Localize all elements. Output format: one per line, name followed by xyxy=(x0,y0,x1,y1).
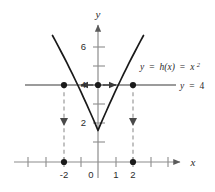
graph-figure: -2 0 1 2 2 4 6 y x y = h(x) = x 2 y = 4 xyxy=(0,0,215,192)
curve-label-function: h(x) xyxy=(160,62,175,73)
drop-arrowhead-right xyxy=(129,118,137,126)
marker-solution-right xyxy=(130,159,136,165)
line-label-value: 4 xyxy=(200,81,205,91)
y-tick-label-4: 4 xyxy=(81,79,86,90)
y-tick-labels: 2 4 6 xyxy=(81,41,86,128)
marker-line-y-intercept xyxy=(95,82,101,88)
line-label-y: y xyxy=(179,81,185,91)
curve-equation-label: y = h(x) = x 2 xyxy=(139,61,201,74)
marker-solution-left xyxy=(61,159,67,165)
curve-label-exponent: 2 xyxy=(197,61,201,68)
curve-label-equals-2: = xyxy=(180,62,185,72)
curve-label-equals-1: = xyxy=(149,62,154,72)
x-axis-label: x xyxy=(190,156,196,168)
line-label-equals: = xyxy=(189,81,194,91)
drop-arrowhead-left xyxy=(60,118,68,126)
y-axis-label: y xyxy=(95,8,101,20)
curve-label-base: x xyxy=(189,62,195,72)
axes-group xyxy=(14,25,180,178)
marker-intersection-right xyxy=(130,82,136,88)
x-tick-label--2: -2 xyxy=(60,169,68,180)
horizontal-line-equation-label: y = 4 xyxy=(179,81,205,91)
curve-label-y: y xyxy=(139,62,145,72)
y-tick-label-2: 2 xyxy=(81,117,86,128)
x-tick-label-1: 1 xyxy=(113,169,118,180)
y-tick-label-6: 6 xyxy=(81,41,86,52)
x-tick-label-0: 0 xyxy=(88,169,93,180)
x-tick-label-2: 2 xyxy=(130,169,135,180)
cartesian-plot: -2 0 1 2 2 4 6 y x y = h(x) = x 2 y = 4 xyxy=(0,0,215,192)
marker-intersection-left xyxy=(61,82,67,88)
